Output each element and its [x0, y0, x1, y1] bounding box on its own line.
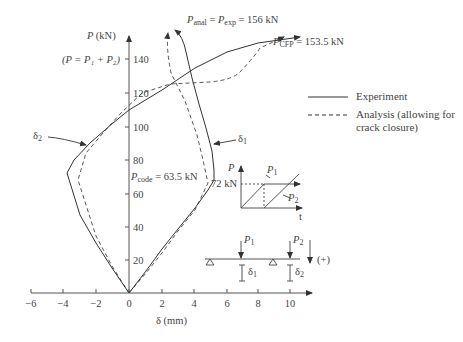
svg-text:80: 80: [133, 155, 144, 166]
annotation-cfp-load: PCFP = 153.5 kN: [273, 37, 344, 49]
svg-text:10: 10: [285, 298, 296, 309]
annotation-code-load: Pcode = 63.5 kN: [131, 172, 198, 184]
svg-text:40: 40: [133, 222, 144, 233]
delta2-indicator: [287, 265, 293, 281]
support-left-icon: [206, 259, 214, 265]
legend-experiment-label: Experiment: [356, 91, 407, 102]
beam-p2-label: P2: [293, 235, 303, 247]
legend-analysis-label: Analysis (allowing for: [356, 109, 455, 120]
inset-p-label: P: [228, 163, 234, 174]
legend-analysis-label-2: crack closure): [356, 122, 418, 133]
svg-text:6: 6: [224, 298, 229, 309]
x-axis: [31, 289, 312, 293]
y-axis-note: (P = P₁ + P₂): [62, 55, 120, 66]
svg-text:60: 60: [133, 189, 144, 200]
inset-p2-label: P2: [288, 193, 298, 205]
legend-swatches: [308, 97, 348, 115]
svg-text:−2: −2: [90, 298, 101, 309]
inset-p1-label: P1: [267, 165, 277, 177]
experiment-delta2-curve: [67, 37, 300, 293]
y-ticks: [125, 59, 129, 260]
label-delta1: δ1: [238, 134, 247, 146]
series-analysis: [78, 33, 284, 293]
svg-text:140: 140: [133, 54, 149, 65]
svg-text:−4: −4: [57, 298, 69, 309]
x-ticks: [31, 289, 290, 293]
x-tick-labels: −6 −4 −2 0 2 4 6 8 10: [25, 298, 295, 309]
svg-text:4: 4: [191, 298, 197, 309]
delta-leaders: [48, 137, 236, 145]
y-tick-labels: 20 40 60 80 100 120 140: [133, 54, 149, 266]
inset-t-label: t: [299, 212, 302, 223]
inset-72kn-label: 72 kN: [211, 179, 237, 190]
delta1-leader-arrow: [214, 140, 236, 144]
svg-text:0: 0: [126, 298, 131, 309]
svg-text:8: 8: [255, 298, 260, 309]
beam-p1-label: P1: [244, 235, 254, 247]
svg-text:−6: −6: [25, 298, 36, 309]
analysis-delta2-curve: [78, 37, 284, 293]
label-delta2: δ2: [33, 131, 42, 143]
delta2-leader-arrow: [48, 137, 86, 145]
x-axis-title: δ (mm): [156, 316, 187, 327]
svg-text:20: 20: [133, 255, 144, 266]
annotation-peak-load: Panal = Pexp = 156 kN: [187, 15, 278, 27]
sign-convention-label: (+): [317, 255, 330, 266]
support-right-icon: [269, 259, 277, 265]
svg-text:100: 100: [133, 122, 149, 133]
beam-delta1-label: δ1: [248, 267, 257, 279]
beam-delta2-label: δ2: [295, 267, 304, 279]
svg-text:2: 2: [159, 298, 164, 309]
y-axis: [125, 36, 129, 293]
delta1-indicator: [239, 265, 245, 281]
series-experiment: [67, 30, 300, 293]
y-axis-title: P (kN): [87, 31, 116, 42]
